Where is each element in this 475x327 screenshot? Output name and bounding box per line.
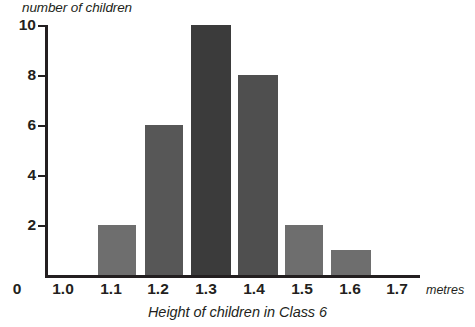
y-axis-line [45,25,48,277]
histogram-chart: number of children 10 8 6 4 2 0 1.0 1.1 … [0,0,475,327]
y-tick-label-4: 4 [6,167,36,183]
x-tick-label-1.7: 1.7 [374,281,420,297]
x-tick-label-1.4: 1.4 [231,281,277,297]
bar-1.2 [145,125,183,275]
x-axis-unit-label: metres [426,284,464,297]
x-axis-line [45,275,420,278]
y-tick-4 [38,175,47,177]
y-tick-2 [38,225,47,227]
y-tick-8 [38,75,47,77]
x-tick-label-0: 0 [0,281,40,297]
y-tick-label-2: 2 [6,217,36,233]
x-tick-label-1.2: 1.2 [135,281,181,297]
bar-1.3 [191,25,231,275]
bar-1.1 [98,225,136,275]
x-tick-label-1.5: 1.5 [279,281,325,297]
y-axis-title: number of children [22,0,132,15]
x-tick-label-1.0: 1.0 [40,281,86,297]
y-tick-6 [38,125,47,127]
x-tick-label-1.3: 1.3 [183,281,229,297]
y-tick-10 [38,25,47,27]
x-tick-label-1.6: 1.6 [327,281,373,297]
chart-caption: Height of children in Class 6 [0,304,475,320]
y-tick-label-6: 6 [6,117,36,133]
bar-1.4 [238,75,278,275]
y-tick-label-8: 8 [6,67,36,83]
x-tick-label-1.1: 1.1 [88,281,134,297]
bar-1.5 [285,225,323,275]
bar-1.6 [331,250,371,275]
y-tick-label-10: 10 [6,17,36,33]
